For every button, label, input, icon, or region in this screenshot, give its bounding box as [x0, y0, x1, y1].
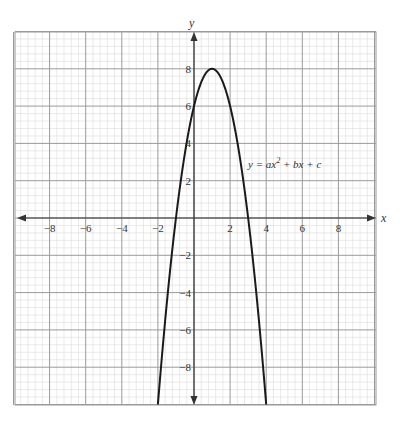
y-axis-down-arrow-icon	[191, 396, 198, 405]
y-axis-up-arrow-icon	[191, 32, 198, 41]
x-tick-label: 8	[336, 222, 342, 234]
x-tick-label: −4	[116, 222, 128, 234]
x-tick-label: 4	[263, 222, 269, 234]
x-tick-label: −2	[152, 222, 164, 234]
y-tick-label: −2	[179, 249, 191, 261]
y-tick-label: 8	[186, 63, 192, 75]
y-tick-label: −4	[179, 287, 191, 299]
x-axis	[17, 215, 376, 222]
x-axis-left-arrow-icon	[17, 215, 26, 222]
y-tick-label: 6	[186, 100, 192, 112]
x-tick-label: −8	[44, 222, 56, 234]
parabola-curve	[158, 69, 266, 405]
y-tick-label: −8	[179, 361, 191, 373]
y-axis-label: y	[188, 16, 195, 30]
parabola-chart: y x −8−6−4−224688642−2−4−6−8 y = ax2 + b…	[0, 0, 400, 423]
y-tick-label: 2	[186, 175, 192, 187]
x-axis-label: x	[380, 211, 387, 225]
x-tick-label: 2	[227, 222, 233, 234]
y-tick-label: −6	[179, 324, 191, 336]
equation-label: y = ax2 + bx + c	[247, 156, 321, 170]
x-tick-label: −6	[80, 222, 92, 234]
x-tick-label: 6	[300, 222, 306, 234]
